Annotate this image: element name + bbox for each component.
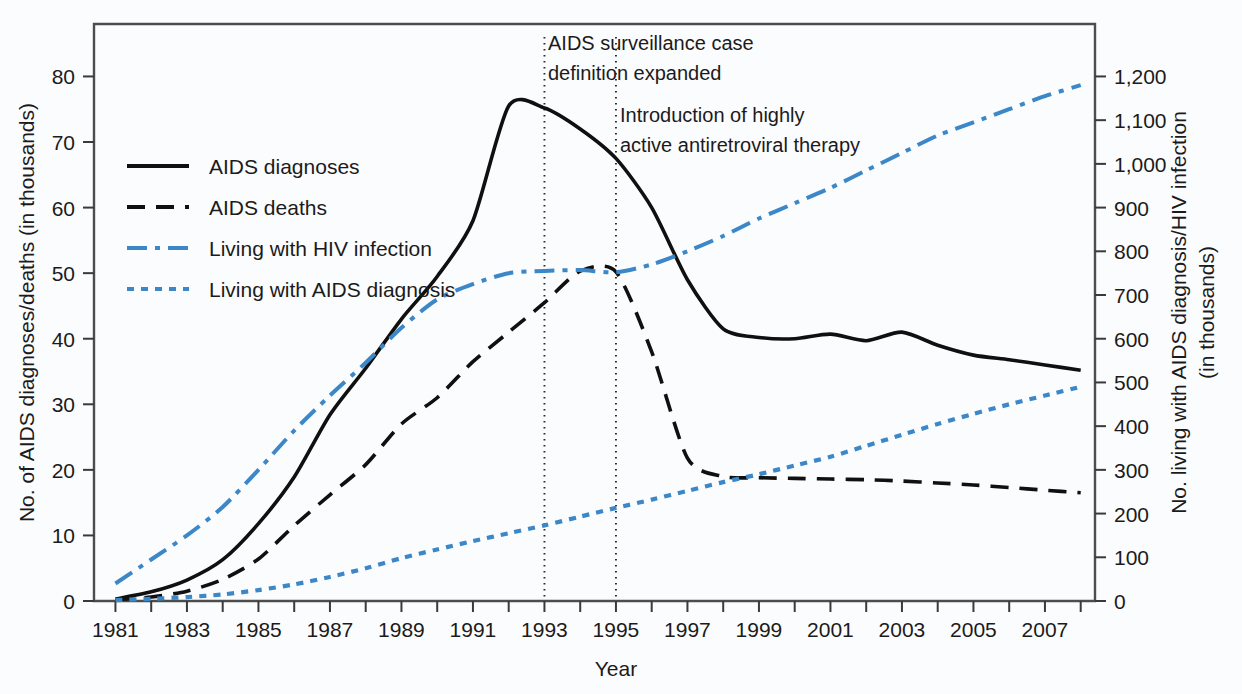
y-axis-title-right: No. living with AIDS diagnosis/HIV infec… — [1167, 111, 1190, 514]
y-tick-label-left: 70 — [52, 131, 75, 154]
x-tick-label: 1981 — [92, 618, 139, 641]
x-tick-label: 2005 — [950, 618, 997, 641]
annotation-text-1: AIDS surveillance case — [548, 32, 754, 54]
y-tick-label-right: 800 — [1114, 240, 1149, 263]
y-tick-label-left: 10 — [52, 524, 75, 547]
legend-label-3: Living with HIV infection — [209, 237, 432, 260]
legend-label-2: AIDS deaths — [209, 196, 327, 219]
chart-figure: 1981198319851987198919911993199519971999… — [0, 0, 1242, 694]
x-tick-label: 1993 — [521, 618, 568, 641]
y-tick-label-right: 300 — [1114, 459, 1149, 482]
y-tick-label-right: 500 — [1114, 371, 1149, 394]
y-tick-label-left: 60 — [52, 197, 75, 220]
y-tick-label-left: 0 — [63, 590, 75, 613]
x-tick-label: 2007 — [1022, 618, 1069, 641]
y-tick-label-right: 200 — [1114, 503, 1149, 526]
y-tick-label-left: 40 — [52, 328, 75, 351]
x-tick-label: 2001 — [807, 618, 854, 641]
x-tick-label: 1985 — [235, 618, 282, 641]
y-tick-label-right: 700 — [1114, 284, 1149, 307]
legend-label-1: AIDS diagnoses — [209, 155, 360, 178]
x-tick-label: 1995 — [593, 618, 640, 641]
y-axis-title-right-unit: (in thousands) — [1195, 246, 1218, 379]
y-tick-label-left: 20 — [52, 459, 75, 482]
y-tick-label-right: 600 — [1114, 328, 1149, 351]
y-tick-label-right: 1,100 — [1114, 109, 1167, 132]
x-tick-label: 1997 — [664, 618, 711, 641]
y-tick-label-right: 0 — [1114, 590, 1126, 613]
y-tick-label-left: 30 — [52, 393, 75, 416]
legend-label-4: Living with AIDS diagnosis — [209, 278, 455, 301]
x-tick-label: 1987 — [307, 618, 354, 641]
y-tick-label-left: 80 — [52, 65, 75, 88]
y-tick-label-right: 1,000 — [1114, 153, 1167, 176]
x-axis-title: Year — [595, 657, 637, 680]
y-tick-label-right: 1,200 — [1114, 65, 1167, 88]
x-tick-label: 1999 — [736, 618, 783, 641]
y-axis-title-left: No. of AIDS diagnoses/deaths (in thousan… — [15, 103, 38, 522]
aids-trends-line-chart: 1981198319851987198919911993199519971999… — [0, 0, 1242, 694]
y-tick-label-right: 900 — [1114, 197, 1149, 220]
x-tick-label: 1983 — [164, 618, 211, 641]
x-tick-label: 2003 — [879, 618, 926, 641]
y-tick-label-right: 100 — [1114, 546, 1149, 569]
x-tick-label: 1989 — [378, 618, 425, 641]
annotation-text-1: definition expanded — [548, 62, 721, 84]
annotation-text-2: active antiretroviral therapy — [620, 134, 860, 156]
y-tick-label-right: 400 — [1114, 415, 1149, 438]
annotation-text-2: Introduction of highly — [620, 104, 805, 126]
y-tick-label-left: 50 — [52, 262, 75, 285]
x-tick-label: 1991 — [450, 618, 497, 641]
